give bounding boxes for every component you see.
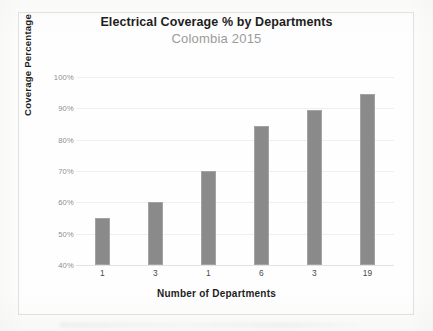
y-axis-tick-label: 60% <box>58 198 74 207</box>
bar-slot <box>76 77 129 265</box>
y-axis-tick-labels: 100%90%80%70%60%50%40% <box>40 77 74 265</box>
y-axis-tick-label: 50% <box>58 229 74 238</box>
bar <box>254 126 269 265</box>
x-axis-tick-labels: 1316319 <box>76 268 394 278</box>
y-axis-tick-label: 100% <box>54 73 74 82</box>
chart-subtitle: Colombia 2015 <box>0 30 433 47</box>
y-axis-tick-label: 80% <box>58 135 74 144</box>
bar <box>360 94 375 265</box>
axis-baseline <box>76 265 394 266</box>
bar-slot <box>288 77 341 265</box>
bar-slot <box>235 77 288 265</box>
bar <box>95 218 110 265</box>
x-axis-tick-label: 3 <box>288 268 341 278</box>
caption-smudge <box>60 322 360 328</box>
bar <box>307 110 322 265</box>
y-axis-tick-label: 90% <box>58 104 74 113</box>
y-axis-tick-label: 40% <box>58 261 74 270</box>
bar <box>201 171 216 265</box>
x-axis-tick-label: 6 <box>235 268 288 278</box>
x-axis-title: Number of Departments <box>0 288 433 299</box>
bar <box>148 202 163 265</box>
x-axis-tick-label: 19 <box>341 268 394 278</box>
bar-slot <box>341 77 394 265</box>
chart-title: Electrical Coverage % by Departments <box>0 14 433 30</box>
y-axis-title: Coverage Percentage <box>22 0 33 116</box>
x-axis-tick-label: 3 <box>129 268 182 278</box>
title-block: Electrical Coverage % by Departments Col… <box>0 14 433 47</box>
x-axis-tick-label: 1 <box>182 268 235 278</box>
y-axis-tick-label: 70% <box>58 167 74 176</box>
bar-slot <box>129 77 182 265</box>
plot-area <box>76 77 394 265</box>
bar-series <box>76 77 394 265</box>
bar-slot <box>182 77 235 265</box>
x-axis-tick-label: 1 <box>76 268 129 278</box>
